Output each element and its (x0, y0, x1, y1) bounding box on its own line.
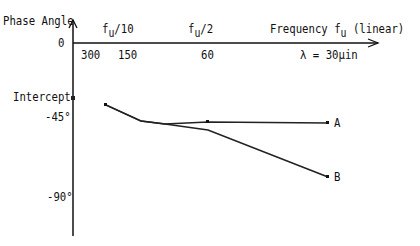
x-axis-title: Frequency fu (linear) (270, 22, 404, 39)
y-tick-minus90: -90° (47, 190, 73, 203)
y-tick-0: 0 (58, 36, 64, 49)
y-axis-title: Phase Angle (3, 14, 74, 27)
y-tick-minus45: -45° (45, 110, 71, 123)
series-b-label: B (334, 170, 340, 183)
x-tick-300: 300 (81, 48, 100, 61)
phase-angle-chart: Phase Angle 0 fu/10 fu/2 Frequency fu (l… (0, 0, 420, 246)
x-annotation-fu2: fu/2 (188, 22, 213, 39)
intercept-label: Intercept (13, 90, 71, 103)
x-tick-150: 150 (118, 48, 137, 61)
series-b-line (106, 105, 328, 177)
series-a-line (106, 105, 328, 124)
intercept-marker (71, 96, 75, 100)
series-a-label: A (334, 116, 340, 129)
lambda-parameter: λ = 30μin (300, 48, 358, 61)
x-tick-60: 60 (201, 48, 214, 61)
x-annotation-fu10: fu/10 (102, 22, 134, 39)
